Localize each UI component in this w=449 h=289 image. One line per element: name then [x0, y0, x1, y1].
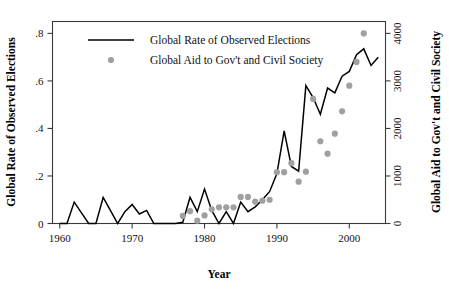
scatter-point	[267, 197, 273, 203]
line-series	[60, 49, 379, 224]
y2-tick-label: 3000	[391, 69, 403, 92]
y-axis-left-title: Global Rate of Observed Elections	[5, 37, 17, 207]
y2-tick-label: 2000	[391, 117, 403, 140]
y2-tick-label: 1000	[391, 164, 403, 187]
scatter-point	[245, 194, 251, 200]
x-axis-title: Year	[208, 268, 231, 280]
scatter-point	[339, 108, 345, 114]
y-axis-right-title: Global Aid to Gov't and Civil Society	[430, 31, 443, 213]
scatter-point	[274, 169, 280, 175]
scatter-point	[281, 169, 287, 175]
x-axis-ticks: 19601970198019902000	[49, 224, 361, 244]
scatter-point	[259, 198, 265, 204]
y-tick-label: 0	[38, 218, 44, 230]
scatter-point	[332, 131, 338, 137]
scatter-point	[303, 169, 309, 175]
x-tick-label: 1990	[266, 232, 289, 244]
scatter-point	[223, 204, 229, 210]
scatter-point	[209, 206, 215, 212]
plot-frame	[53, 22, 386, 224]
x-tick-label: 1970	[121, 232, 144, 244]
scatter-point	[288, 160, 294, 166]
y-tick-label: .2	[35, 170, 43, 182]
x-tick-label: 1980	[194, 232, 217, 244]
x-tick-label: 1960	[49, 232, 72, 244]
scatter-point	[187, 208, 193, 214]
scatter-point	[346, 83, 352, 89]
scatter-point	[361, 30, 367, 36]
chart-svg: 19601970198019902000 0.2.4.6.8 010002000…	[0, 0, 449, 289]
y2-tick-label: 0	[391, 220, 403, 226]
scatter-point	[216, 204, 222, 210]
scatter-point	[324, 151, 330, 157]
chart-figure: 19601970198019902000 0.2.4.6.8 010002000…	[0, 0, 449, 289]
scatter-point	[296, 179, 302, 185]
scatter-point	[353, 59, 359, 65]
scatter-point	[317, 138, 323, 144]
scatter-point	[194, 218, 200, 224]
scatter-point	[180, 213, 186, 219]
x-tick-label: 2000	[338, 232, 361, 244]
y-axis-left-ticks: 0.2.4.6.8	[35, 27, 52, 229]
chart-legend: Global Rate of Observed ElectionsGlobal …	[88, 34, 324, 67]
y2-tick-label: 4000	[391, 22, 403, 45]
legend-label: Global Aid to Gov't and Civil Society	[150, 54, 324, 67]
legend-dot-marker	[108, 57, 114, 63]
legend-label: Global Rate of Observed Elections	[150, 34, 311, 46]
scatter-point	[310, 96, 316, 102]
scatter-point	[238, 194, 244, 200]
y-tick-label: .4	[35, 122, 44, 134]
scatter-point	[201, 212, 207, 218]
y-axis-right-ticks: 01000200030004000	[386, 22, 403, 226]
scatter-point	[230, 204, 236, 210]
y-tick-label: .8	[35, 27, 44, 39]
y-tick-label: .6	[35, 75, 44, 87]
scatter-point	[252, 199, 258, 205]
